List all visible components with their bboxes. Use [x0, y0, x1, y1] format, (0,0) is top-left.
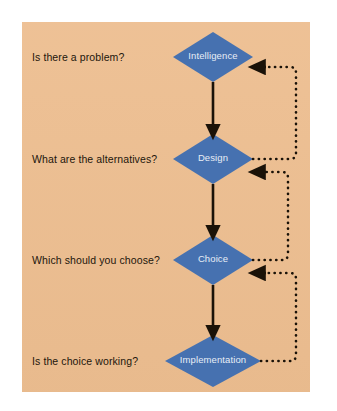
q-implementation: Is the choice working? — [32, 355, 138, 367]
q-design: What are the alternatives? — [32, 153, 157, 165]
node-label-intelligence: Intelligence — [143, 50, 283, 61]
feedback-loop-implementation-to-choice — [257, 273, 296, 361]
node-label-choice: Choice — [143, 253, 283, 264]
feedback-loops-layer — [253, 67, 296, 361]
feedback-loop-design-to-intelligence — [253, 67, 296, 159]
node-label-implementation: Implementation — [143, 354, 283, 365]
q-intelligence: Is there a problem? — [32, 51, 124, 63]
node-label-design: Design — [143, 152, 283, 163]
feedback-loop-choice-to-design — [253, 172, 288, 260]
q-choice: Which should you choose? — [32, 254, 160, 266]
